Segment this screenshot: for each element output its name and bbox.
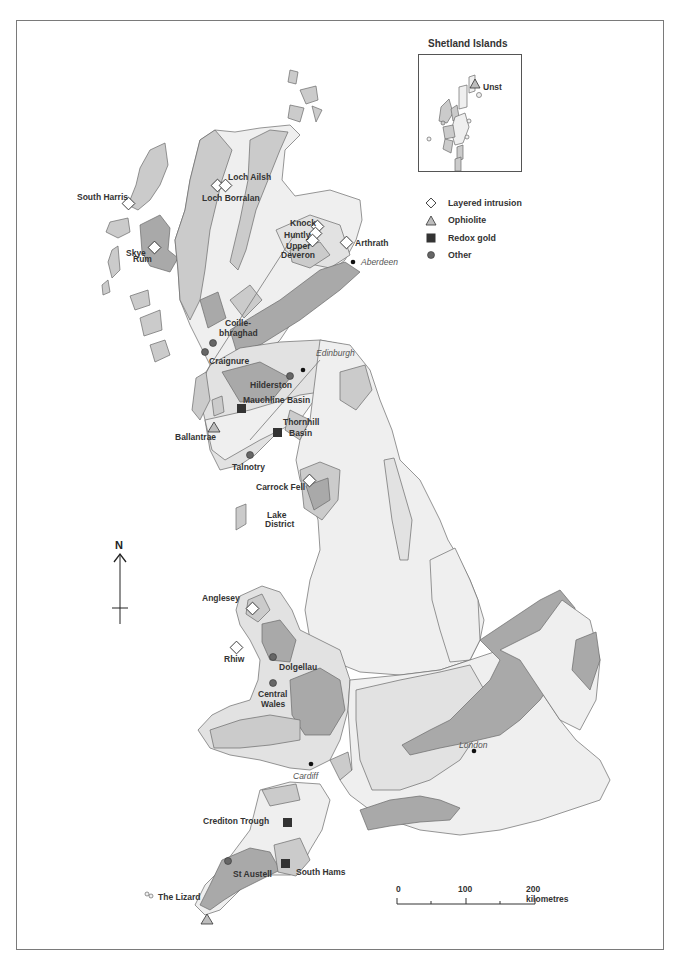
- label-basin: Basin: [289, 428, 312, 438]
- label-district: District: [265, 519, 294, 529]
- label-anglesey: Anglesey: [202, 593, 240, 603]
- label-thornhill: Thornhill: [283, 417, 319, 427]
- label-knock: Knock: [290, 218, 316, 228]
- legend-label: Other: [448, 250, 471, 260]
- scale-tick-0: 0: [396, 884, 401, 894]
- label-south-harris: South Harris: [77, 192, 128, 202]
- legend: Layered intrusion Ophiolite Redox gold O…: [424, 194, 522, 264]
- diamond-icon: [424, 197, 438, 209]
- legend-label: Layered intrusion: [448, 198, 522, 208]
- triangle-icon: [424, 214, 438, 226]
- britain-map: [0, 0, 678, 968]
- city-aberdeen: Aberdeen: [361, 257, 398, 267]
- label-central: Central: [258, 689, 287, 699]
- label-hilderston: Hilderston: [250, 380, 292, 390]
- shetland-map: [419, 55, 521, 171]
- label-rum: Rum: [133, 254, 152, 264]
- scale-line: [396, 896, 536, 906]
- label-loch-borralan: Loch Borralan: [202, 193, 260, 203]
- legend-item-ophiolite: Ophiolite: [424, 212, 522, 230]
- circle-icon: [424, 249, 438, 261]
- legend-item-other: Other: [424, 247, 522, 265]
- label-wales: Wales: [261, 699, 285, 709]
- outer-hebrides: [128, 143, 168, 210]
- legend-item-redox-gold: Redox gold: [424, 229, 522, 247]
- isle-of-man: [236, 504, 246, 530]
- city-cardiff: Cardiff: [293, 771, 318, 781]
- city-edinburgh: Edinburgh: [316, 348, 355, 358]
- scale-bar: 0 100 200 kilometres: [396, 884, 576, 914]
- square-icon: [424, 232, 438, 244]
- label-coille: Coille-: [225, 318, 251, 328]
- shetland-inset: Unst: [418, 54, 522, 172]
- legend-label: Redox gold: [448, 233, 496, 243]
- label-rhiw: Rhiw: [224, 654, 244, 664]
- inset-title: Shetland Islands: [428, 38, 507, 49]
- legend-label: Ophiolite: [448, 215, 486, 225]
- label-carrock-fell: Carrock Fell: [256, 482, 305, 492]
- scale-tick-100: 100: [458, 884, 472, 894]
- legend-item-layered-intrusion: Layered intrusion: [424, 194, 522, 212]
- label-craignure: Craignure: [209, 356, 249, 366]
- label-dolgellau: Dolgellau: [279, 662, 317, 672]
- north-arrow-icon: [110, 540, 130, 630]
- city-london: London: [459, 740, 487, 750]
- label-deveron: Deveron: [281, 250, 315, 260]
- label-loch-ailsh: Loch Ailsh: [228, 172, 271, 182]
- label-south-hams: South Hams: [296, 867, 346, 877]
- label-talnotry: Talnotry: [232, 462, 265, 472]
- label-mauchline-basin: Mauchline Basin: [243, 395, 310, 405]
- label-st-austell: St Austell: [233, 869, 272, 879]
- label-unst: Unst: [483, 82, 502, 92]
- label-ballantrae: Ballantrae: [175, 432, 216, 442]
- label-crediton-trough: Crediton Trough: [203, 816, 269, 826]
- label-huntly: Huntly: [284, 230, 310, 240]
- label-arthrath: Arthrath: [355, 238, 389, 248]
- label-bhraghad: bhraghad: [219, 328, 258, 338]
- label-the-lizard: The Lizard: [158, 892, 201, 902]
